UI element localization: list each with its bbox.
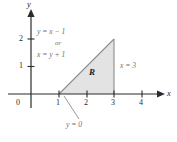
x-axis-arrowhead bbox=[157, 90, 165, 97]
y-axis-label: y bbox=[27, 0, 31, 9]
y-axis-arrowhead bbox=[27, 9, 34, 17]
annotation-hypotenuse-equation-alt: x = y + 1 bbox=[37, 51, 65, 59]
origin-label: 0 bbox=[16, 99, 20, 107]
x-tick-label-2: 2 bbox=[84, 99, 88, 107]
x-tick-label-3: 3 bbox=[111, 99, 115, 107]
x-tick-label-1: 1 bbox=[56, 99, 60, 107]
leader-line-y-equals-0 bbox=[64, 96, 79, 119]
annotation-y-equals-0: y = 0 bbox=[66, 121, 82, 129]
region-label-r: R bbox=[89, 68, 95, 77]
y-tick-label-1: 1 bbox=[19, 62, 23, 70]
figure-region-r-triangle: y x 0 1 2 3 4 1 2 y = x − 1 or x = y + 1… bbox=[0, 0, 177, 142]
annotation-hypotenuse-equation: y = x − 1 bbox=[37, 28, 65, 36]
annotation-x-equals-3: x = 3 bbox=[120, 62, 136, 70]
x-axis-label: x bbox=[167, 89, 171, 98]
x-tick-label-4: 4 bbox=[139, 99, 143, 107]
annotation-or: or bbox=[55, 40, 61, 47]
y-tick-label-2: 2 bbox=[19, 35, 23, 43]
